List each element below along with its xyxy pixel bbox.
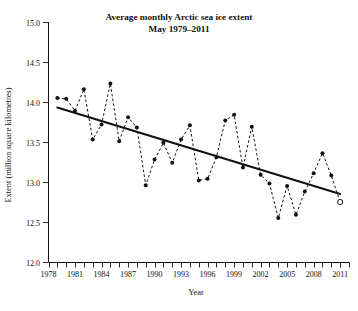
data-point-marker xyxy=(153,158,157,162)
y-tick-label: 13.5 xyxy=(26,139,40,148)
data-point-marker xyxy=(108,82,112,86)
x-tick-label: 1993 xyxy=(173,270,189,279)
data-point-marker xyxy=(144,183,148,187)
data-point-marker xyxy=(126,115,130,119)
data-point-marker xyxy=(135,126,139,130)
y-axis-ticks: 15.0 14.5 14.0 13.5 13.0 12.5 12.0 xyxy=(26,19,49,268)
data-point-marker xyxy=(91,138,95,142)
x-tick-label: 1981 xyxy=(67,270,83,279)
y-axis-title: Extent (million square kilometres) xyxy=(4,87,13,202)
arctic-sea-ice-extent-chart: Average monthly Arctic sea ice extent Ma… xyxy=(0,0,358,311)
y-tick-label: 12.0 xyxy=(26,259,40,268)
data-point-marker xyxy=(285,184,289,188)
x-axis-title: Year xyxy=(188,288,204,297)
chart-subtitle: May 1979–2011 xyxy=(149,24,210,34)
y-tick-label: 14.5 xyxy=(26,59,40,68)
data-point-marker xyxy=(303,190,307,194)
data-point-marker xyxy=(82,87,86,91)
x-tick-label: 2008 xyxy=(306,270,322,279)
data-point-marker xyxy=(320,151,324,155)
data-point-marker xyxy=(259,173,263,177)
y-tick-label: 13.0 xyxy=(26,179,40,188)
x-tick-label: 1999 xyxy=(226,270,242,279)
data-point-marker xyxy=(73,109,77,113)
x-tick-label: 1990 xyxy=(147,270,163,279)
data-point-marker xyxy=(100,122,104,126)
chart-title: Average monthly Arctic sea ice extent xyxy=(106,12,254,22)
y-tick-label: 12.5 xyxy=(26,219,40,228)
data-point-marker xyxy=(214,155,218,159)
data-point-marker xyxy=(161,141,165,145)
data-point-marker xyxy=(188,123,192,127)
data-point-marker xyxy=(55,96,59,100)
x-tick-label: 1996 xyxy=(200,270,216,279)
x-axis-ticks xyxy=(50,263,350,268)
data-point-marker xyxy=(329,174,333,178)
data-point-marker xyxy=(241,166,245,170)
data-point-marker xyxy=(312,171,316,175)
data-point-marker xyxy=(64,97,68,101)
data-point-marker xyxy=(223,118,227,122)
data-point-marker xyxy=(117,139,121,143)
x-tick-label: 1978 xyxy=(41,270,57,279)
x-tick-label: 1984 xyxy=(94,270,110,279)
x-axis-tick-labels: 1978198119841987199019931996199920022005… xyxy=(41,270,349,279)
data-point-open-marker xyxy=(338,199,343,204)
data-point-marker xyxy=(250,125,254,129)
data-point-marker xyxy=(179,138,183,142)
data-point-marker xyxy=(206,177,210,181)
chart-figure: Average monthly Arctic sea ice extent Ma… xyxy=(0,0,358,311)
data-point-marker xyxy=(197,178,201,182)
x-tick-label: 2005 xyxy=(279,270,295,279)
data-point-marker xyxy=(276,216,280,220)
data-point-marker xyxy=(170,161,174,165)
y-tick-label: 14.0 xyxy=(26,99,40,108)
y-tick-label: 15.0 xyxy=(26,19,40,28)
x-tick-label: 2011 xyxy=(332,270,348,279)
data-point-marker xyxy=(294,213,298,217)
data-point-marker xyxy=(267,182,271,186)
x-tick-label: 2002 xyxy=(253,270,269,279)
data-point-marker xyxy=(232,113,236,117)
x-tick-label: 1987 xyxy=(120,270,136,279)
